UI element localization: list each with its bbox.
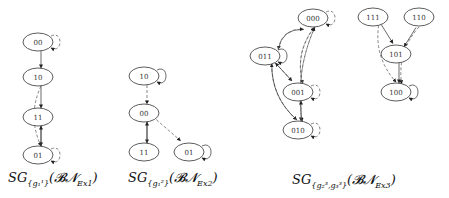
svg-text:010: 010: [291, 127, 304, 135]
state-node-011: 011: [250, 47, 280, 65]
state-node-01: 01: [174, 143, 204, 161]
svg-text:00: 00: [34, 39, 43, 47]
caption-prefix: SG: [128, 170, 147, 185]
edge-001-to-000: [300, 28, 314, 84]
state-node-00: 00: [129, 104, 159, 122]
caption-close: ): [213, 170, 218, 185]
svg-text:110: 110: [412, 14, 425, 22]
state-node-01: 01: [23, 146, 53, 164]
edge-011-to-000: [278, 29, 303, 49]
state-graph-canvas: 0010110110001101000011001010111110101100: [0, 0, 449, 198]
svg-text:000: 000: [306, 15, 319, 23]
caption-close: ): [391, 172, 396, 187]
caption-network: (𝓑𝓝: [49, 170, 77, 185]
state-node-101: 101: [381, 45, 411, 63]
caption-graph-2: SG{g₁²}(𝓑𝓝Ex2): [128, 170, 218, 188]
state-node-000: 000: [298, 9, 328, 27]
nodes-layer: 0010110110001101000011001010111110101100: [23, 8, 434, 164]
caption-network: (𝓑𝓝: [347, 172, 375, 187]
edges-layer: [34, 11, 419, 162]
state-node-11: 11: [23, 108, 53, 126]
caption-subscript: {g₁²}: [147, 179, 169, 188]
caption-network: (𝓑𝓝: [169, 170, 197, 185]
state-node-111: 111: [358, 8, 388, 26]
edge-00-to-01: [156, 120, 180, 141]
edge-110-to-101: [404, 28, 416, 47]
state-node-110: 110: [404, 8, 434, 26]
edge-111-to-101: [381, 24, 393, 43]
svg-text:101: 101: [389, 51, 402, 59]
state-node-001: 001: [283, 83, 313, 101]
svg-text:11: 11: [34, 114, 43, 122]
caption-graph-3: SG{g₂³,g₃³}(𝓑𝓝Ex3): [292, 172, 396, 190]
svg-text:10: 10: [140, 73, 149, 81]
state-node-10: 10: [129, 67, 159, 85]
svg-text:001: 001: [291, 89, 304, 97]
caption-network-subscript: Ex3: [375, 181, 390, 190]
caption-subscript: {g₁¹}: [27, 179, 49, 188]
svg-text:111: 111: [366, 14, 379, 22]
state-node-010: 010: [283, 121, 313, 139]
state-node-11: 11: [129, 143, 159, 161]
caption-network-subscript: Ex2: [197, 179, 212, 188]
caption-subscript: {g₂³,g₃³}: [311, 181, 347, 190]
state-node-100: 100: [381, 83, 411, 101]
caption-prefix: SG: [292, 172, 311, 187]
state-node-10: 10: [23, 68, 53, 86]
edge-000-to-010: [300, 27, 315, 121]
svg-text:100: 100: [389, 89, 402, 97]
caption-graph-1: SG{g₁¹}(𝓑𝓝Ex1): [8, 170, 98, 188]
edge-000-to-001: [300, 28, 314, 84]
caption-close: ): [93, 170, 98, 185]
caption-network-subscript: Ex1: [77, 179, 92, 188]
edge-001-to-011: [275, 63, 292, 81]
caption-prefix: SG: [8, 170, 27, 185]
svg-text:11: 11: [140, 149, 149, 157]
svg-text:01: 01: [185, 149, 194, 157]
svg-text:011: 011: [258, 53, 271, 61]
state-node-00: 00: [23, 33, 53, 51]
svg-text:01: 01: [34, 152, 43, 160]
svg-text:00: 00: [140, 110, 149, 118]
edge-010-to-000: [300, 27, 315, 121]
svg-text:10: 10: [34, 74, 43, 82]
